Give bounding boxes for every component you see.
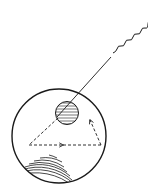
- eye-diagram: [0, 0, 148, 184]
- dashed-path: [29, 118, 101, 145]
- wavy-light-ray: [113, 20, 148, 53]
- incident-ray: [57, 57, 111, 117]
